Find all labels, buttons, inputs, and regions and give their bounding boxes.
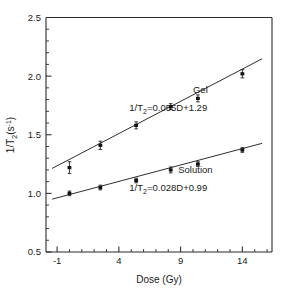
data-point-gel — [68, 166, 72, 169]
sol-eqn-prefix: 1/T — [129, 182, 143, 193]
y-tick-label: 1.5 — [28, 129, 41, 140]
data-point-solution — [98, 186, 102, 189]
chart-background — [0, 0, 286, 294]
gel-eqn-prefix: 1/T — [129, 102, 143, 113]
sol-eqn-rest: =0.028D+0.99 — [147, 182, 207, 193]
series-label-gel: Gel — [193, 84, 208, 95]
series-equation-gel: 1/T2=0.055D+1.29 — [129, 102, 207, 115]
x-tick-label: 4 — [116, 255, 121, 266]
x-tick-label: 9 — [178, 255, 183, 266]
data-point-solution — [240, 148, 244, 151]
data-point-gel — [196, 97, 200, 100]
x-tick-label: 14 — [237, 255, 248, 266]
y-axis-title-open: (s — [5, 126, 16, 134]
data-point-solution — [169, 168, 173, 171]
series-equation-solution: 1/T2=0.028D+0.99 — [129, 182, 207, 195]
scatter-plot: -14914 0.51.01.52.02.5 Dose (Gy) 1/T2(s-… — [0, 0, 286, 294]
y-axis-title-prefix: 1/T — [5, 139, 16, 153]
gel-eqn-rest: =0.055D+1.29 — [147, 102, 207, 113]
x-tick-label: -1 — [53, 255, 61, 266]
x-axis-title: Dose (Gy) — [136, 274, 182, 285]
y-tick-label: 2.5 — [28, 12, 41, 23]
y-axis-title-close: ) — [5, 117, 16, 120]
data-point-gel — [134, 124, 138, 127]
data-point-gel — [98, 144, 102, 147]
data-point-gel — [240, 72, 244, 75]
series-label-solution: Solution — [178, 164, 212, 175]
chart-figure: -14914 0.51.01.52.02.5 Dose (Gy) 1/T2(s-… — [0, 0, 286, 294]
y-tick-label: 1.0 — [28, 188, 41, 199]
data-point-solution — [68, 192, 72, 195]
y-tick-label: 2.0 — [28, 71, 41, 82]
y-tick-label: 0.5 — [28, 246, 41, 257]
